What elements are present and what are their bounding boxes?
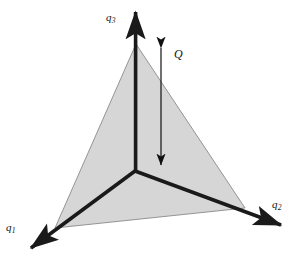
q1-axis-label: q1 xyxy=(6,222,15,233)
q2-axis-label: q2 xyxy=(272,199,281,210)
Q-measure-label: Q xyxy=(174,48,183,60)
q2-axis-label-subscript: 2 xyxy=(278,203,282,212)
q3-axis-label-symbol: q xyxy=(106,11,112,23)
q1-axis-label-subscript: 1 xyxy=(12,226,16,235)
q3-axis-label: q3 xyxy=(106,12,115,23)
q3-axis-label-subscript: 3 xyxy=(112,16,116,25)
figure-container: q3 q1 q2 Q xyxy=(0,0,298,259)
diagram-canvas xyxy=(0,0,298,259)
q1-axis-label-symbol: q xyxy=(6,221,12,233)
q2-axis-label-symbol: q xyxy=(272,198,278,210)
